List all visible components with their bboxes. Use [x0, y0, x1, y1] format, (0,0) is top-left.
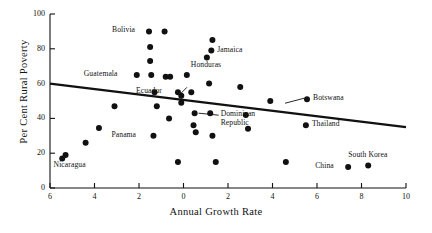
y-tick-label: 100 [23, 9, 45, 18]
label-guatemala: Guatemala [84, 70, 118, 79]
x-tick-label: 2 [219, 192, 237, 201]
label-dominican-republic: DominicanRepublic [221, 109, 256, 127]
label-south-korea: South Korea [348, 151, 387, 160]
y-tick-label: 0 [23, 183, 45, 192]
label-bolivia: Bolivia [112, 26, 135, 35]
label-china: China [315, 162, 334, 171]
label-jamaica: Jamaica [217, 46, 242, 55]
scatter-chart: 020406080100 6420246810 BotswanaThailand… [0, 0, 432, 233]
x-tick-label: 4 [86, 192, 104, 201]
label-panama: Panama [111, 131, 136, 140]
label-thailand: Thailand [312, 120, 340, 129]
label-ecuador: Ecuador [136, 87, 162, 96]
label-botswana: Botswana [313, 94, 344, 103]
x-tick-label: 6 [41, 192, 59, 201]
x-tick-label: 8 [353, 192, 371, 201]
x-tick-label: 0 [175, 192, 193, 201]
tick-marks [50, 14, 406, 188]
label-nicaragua: Nicaragua [54, 161, 86, 170]
x-axis-title: Annual Growth Rate [0, 206, 432, 217]
x-tick-label: 6 [308, 192, 326, 201]
x-tick-label: 10 [397, 192, 415, 201]
axis-lines [50, 14, 406, 188]
x-tick-label: 4 [264, 192, 282, 201]
label-honduras: Honduras [191, 61, 221, 70]
y-axis-title: Per Cent Rural Poverty [18, 32, 29, 152]
x-tick-label: 2 [130, 192, 148, 201]
